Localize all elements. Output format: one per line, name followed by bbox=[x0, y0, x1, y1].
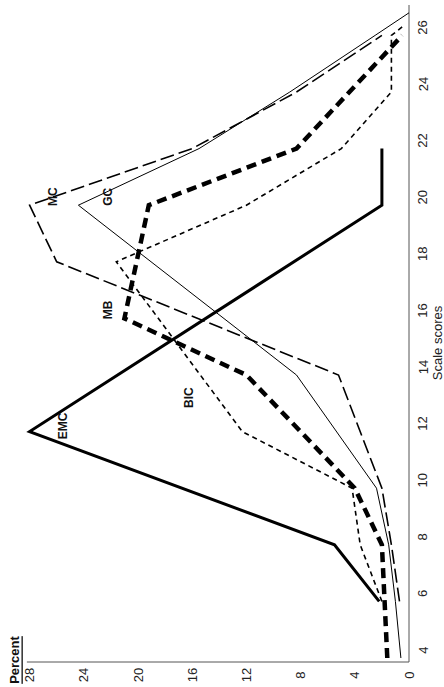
rotated-line-chart: 0481216202428468101214161820222426 EMCGC… bbox=[0, 0, 444, 687]
series-line-gc bbox=[78, 13, 409, 658]
percent-tick-label: 8 bbox=[293, 671, 308, 678]
y-axis-title: Percent bbox=[7, 635, 22, 683]
scale-tick-label: 22 bbox=[416, 133, 431, 147]
scale-tick-label: 8 bbox=[416, 533, 431, 540]
scale-tick-label: 20 bbox=[416, 190, 431, 204]
x-axis-title: Scale scores bbox=[430, 305, 444, 380]
series-lines bbox=[30, 13, 409, 658]
axes: 0481216202428468101214161820222426 bbox=[22, 5, 430, 682]
percent-tick-label: 0 bbox=[402, 671, 417, 678]
series-line-mb bbox=[124, 35, 402, 658]
series-label-mb: MB bbox=[101, 300, 115, 319]
series-labels: EMCGCMCMBBIC bbox=[46, 187, 197, 439]
scale-tick-label: 26 bbox=[416, 20, 431, 34]
percent-tick-label: 28 bbox=[22, 668, 37, 682]
percent-tick-label: 12 bbox=[239, 668, 254, 682]
scale-tick-label: 10 bbox=[416, 473, 431, 487]
series-label-mc: MC bbox=[46, 187, 60, 206]
percent-tick-label: 16 bbox=[185, 668, 200, 682]
series-label-emc: EMC bbox=[56, 412, 70, 439]
scale-tick-label: 6 bbox=[416, 590, 431, 597]
series-line-emc bbox=[30, 149, 382, 602]
scale-tick-label: 24 bbox=[416, 77, 431, 91]
scale-tick-label: 4 bbox=[416, 646, 431, 653]
series-label-bic: BIC bbox=[182, 387, 196, 408]
scale-tick-label: 12 bbox=[416, 416, 431, 430]
scale-tick-label: 18 bbox=[416, 247, 431, 261]
scale-tick-label: 14 bbox=[416, 360, 431, 374]
percent-tick-label: 20 bbox=[131, 668, 146, 682]
series-line-mc bbox=[30, 35, 400, 601]
percent-tick-label: 24 bbox=[76, 668, 91, 682]
series-line-bic bbox=[116, 27, 402, 602]
series-label-gc: GC bbox=[101, 187, 115, 205]
percent-tick-label: 4 bbox=[347, 671, 362, 678]
scale-tick-label: 16 bbox=[416, 303, 431, 317]
